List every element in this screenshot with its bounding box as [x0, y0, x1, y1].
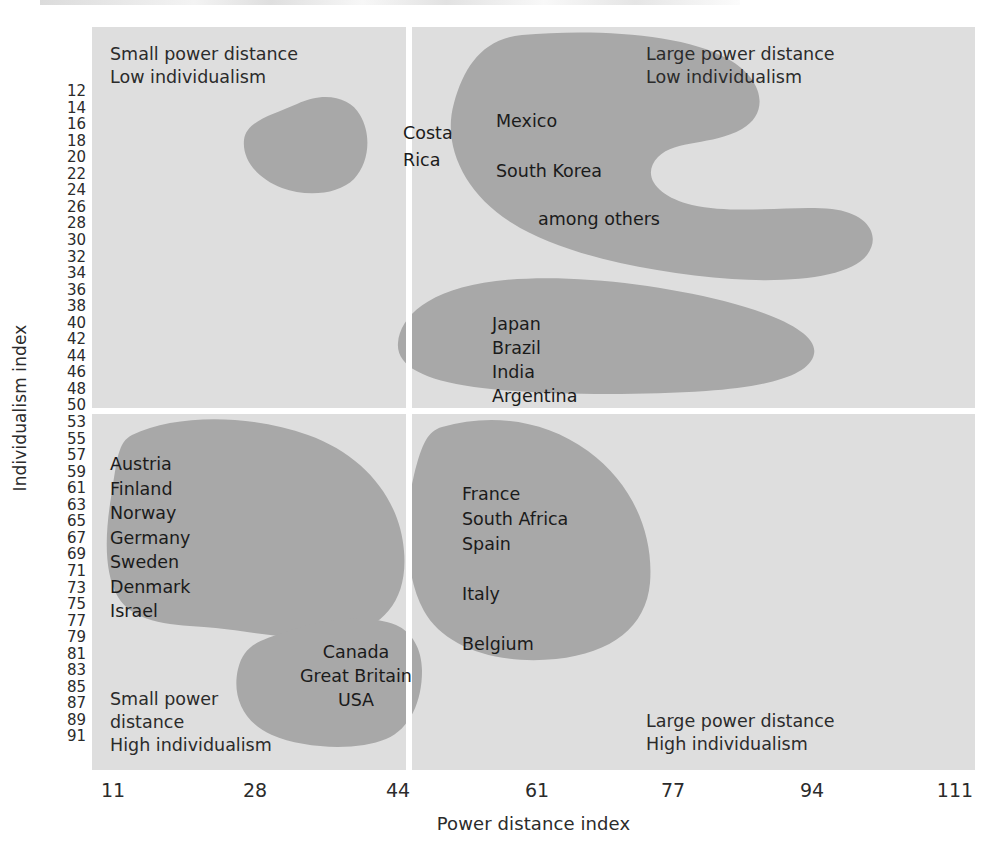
quadrant-label-top-left: Small power distance Low individualism — [110, 43, 298, 89]
y-axis-tick: 73 — [67, 581, 86, 596]
cluster-label-japan-brazil-india-argentina: Japan Brazil India Argentina — [492, 312, 577, 408]
x-axis-title: Power distance index — [92, 813, 975, 834]
chart-figure: Individualism index 12141618202224262830… — [0, 0, 999, 859]
y-axis-tick: 18 — [67, 134, 86, 149]
y-axis-tick: 75 — [67, 597, 86, 612]
y-axis-tick: 87 — [67, 696, 86, 711]
y-axis-title: Individualism index — [10, 248, 30, 568]
cluster-blob-costa-rica — [244, 97, 368, 193]
y-axis-tick: 71 — [67, 564, 86, 579]
y-axis-tick: 42 — [67, 332, 86, 347]
cluster-blob-japan-brazil-india-argentina — [398, 278, 814, 394]
x-axis-tick: 61 — [525, 779, 549, 801]
y-axis-tick: 36 — [67, 283, 86, 298]
cluster-label-nordic-germanic: Austria Finland Norway Germany Sweden De… — [110, 452, 190, 624]
x-axis-tick: 44 — [386, 779, 410, 801]
cluster-label-costa-rica: Costa Rica — [403, 120, 453, 174]
y-axis-tick: 32 — [67, 250, 86, 265]
y-axis-tick: 83 — [67, 663, 86, 678]
cluster-label-south-korea: South Korea — [496, 161, 602, 183]
y-axis-tick: 50 — [67, 398, 86, 413]
y-axis-tick: 40 — [67, 316, 86, 331]
y-axis-tick: 12 — [67, 84, 86, 99]
y-axis-tick: 59 — [67, 465, 86, 480]
quadrant-divider-horizontal — [92, 408, 975, 414]
y-axis-tick: 57 — [67, 448, 86, 463]
y-axis-tick: 67 — [67, 531, 86, 546]
y-axis-tick: 65 — [67, 514, 86, 529]
y-axis-tick: 81 — [67, 647, 86, 662]
y-axis-tick: 48 — [67, 382, 86, 397]
cropped-caption-sliver — [40, 0, 740, 5]
y-axis-tick-labels: 1214161820222426283032343638404244464850… — [44, 84, 86, 744]
cluster-label-among-others: among others — [538, 209, 660, 231]
quadrant-label-bottom-right: Large power distance High individualism — [646, 710, 835, 756]
y-axis-tick: 55 — [67, 432, 86, 447]
y-axis-tick: 85 — [67, 680, 86, 695]
y-axis-tick: 77 — [67, 614, 86, 629]
cluster-label-mexico: Mexico — [496, 111, 557, 133]
cluster-label-anglo: Canada Great Britain USA — [300, 640, 412, 712]
cluster-label-latin-europe: France South Africa Spain Italy Belgium — [462, 482, 568, 657]
y-axis-tick: 63 — [67, 498, 86, 513]
y-axis-tick: 22 — [67, 167, 86, 182]
y-axis-tick: 46 — [67, 365, 86, 380]
x-axis-tick: 94 — [800, 779, 824, 801]
y-axis-tick: 16 — [67, 117, 86, 132]
quadrant-label-top-right: Large power distance Low individualism — [646, 43, 835, 89]
y-axis-tick: 30 — [67, 233, 86, 248]
x-axis-tick: 28 — [243, 779, 267, 801]
y-axis-tick: 61 — [67, 481, 86, 496]
y-axis-tick: 34 — [67, 266, 86, 281]
x-axis-tick: 77 — [661, 779, 685, 801]
y-axis-tick: 69 — [67, 547, 86, 562]
x-axis-tick-labels: 112844617794111 — [0, 779, 999, 805]
y-axis-tick: 14 — [67, 101, 86, 116]
y-axis-tick: 91 — [67, 729, 86, 744]
y-axis-tick: 53 — [67, 415, 86, 430]
y-axis-tick: 38 — [67, 299, 86, 314]
y-axis-tick: 26 — [67, 200, 86, 215]
x-axis-tick: 111 — [937, 779, 973, 801]
x-axis-tick: 11 — [101, 779, 125, 801]
y-axis-tick: 44 — [67, 349, 86, 364]
y-axis-tick: 79 — [67, 630, 86, 645]
y-axis-tick: 28 — [67, 216, 86, 231]
y-axis-tick: 24 — [67, 183, 86, 198]
y-axis-tick: 89 — [67, 713, 86, 728]
y-axis-tick: 20 — [67, 150, 86, 165]
plot-area: Small power distance Low individualism L… — [92, 27, 975, 770]
quadrant-label-bottom-left: Small power distance High individualism — [110, 688, 272, 757]
